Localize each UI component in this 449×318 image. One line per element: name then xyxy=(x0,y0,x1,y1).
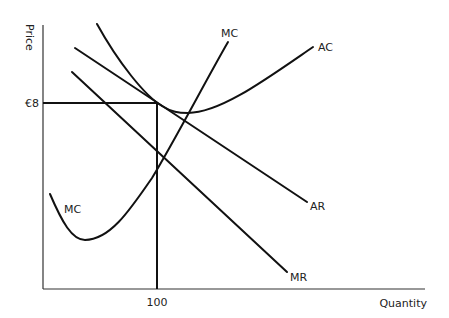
ac-curve xyxy=(97,24,313,113)
quantity-tick-label: 100 xyxy=(147,296,168,309)
mc-bottom-label: MC xyxy=(64,203,81,216)
cost-revenue-diagram: Price Quantity €8 100 AR MR AC MC MC xyxy=(0,0,449,318)
ar-label: AR xyxy=(310,200,326,213)
ac-label: AC xyxy=(318,41,333,54)
mr-label: MR xyxy=(290,271,307,284)
y-axis-label: Price xyxy=(23,24,36,51)
mr-curve xyxy=(72,72,287,272)
price-tick-label: €8 xyxy=(25,97,39,110)
x-axis-label: Quantity xyxy=(379,297,427,310)
ar-curve xyxy=(75,48,307,202)
mc-top-label: MC xyxy=(221,27,238,40)
